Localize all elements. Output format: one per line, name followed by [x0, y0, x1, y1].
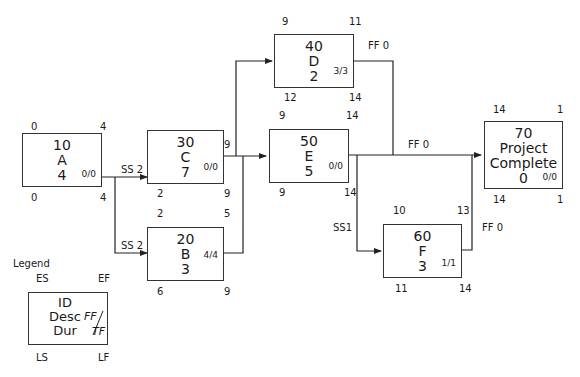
node-f-es: 10 [393, 205, 406, 216]
link-label-e-pc: FF 0 [408, 139, 429, 150]
legend-es: ES [36, 273, 49, 284]
node-a-es: 0 [31, 121, 37, 132]
node-f-ls: 11 [395, 283, 408, 294]
legend-lf: LF [98, 352, 109, 363]
node-pc-ls: 14 [493, 194, 506, 205]
node-c-ef: 9 [224, 139, 230, 150]
node-a-ff-tf: 0/0 [82, 169, 96, 179]
node-pc-es: 14 [493, 104, 506, 115]
node-f-id: 60 [384, 229, 461, 244]
legend-id: ID [23, 296, 107, 310]
node-a-id: 10 [23, 138, 101, 153]
link-label-a-c: SS 2 [121, 164, 143, 175]
node-pc-ef: 1 [557, 104, 563, 115]
node-d[interactable]: 40 D 2 3/3 [274, 34, 354, 88]
link-label-d-pc: FF 0 [368, 40, 389, 51]
node-b-ef: 5 [224, 208, 230, 219]
legend-ef: EF [98, 273, 110, 284]
node-f-desc: F [384, 244, 461, 259]
link-c-d [236, 61, 272, 156]
node-f[interactable]: 60 F 3 1/1 [383, 224, 462, 278]
node-e-ls: 9 [279, 187, 285, 198]
node-project-complete[interactable]: 70 Project Complete 0 0/0 [484, 121, 563, 189]
node-d-es: 9 [282, 16, 288, 27]
node-b[interactable]: 20 B 3 4/4 [147, 227, 224, 281]
node-c-ff-tf: 0/0 [204, 162, 218, 172]
node-pc-ff-tf: 0/0 [543, 172, 557, 182]
node-f-ff-tf: 1/1 [442, 258, 456, 268]
link-label-e-f: SS1 [333, 222, 352, 233]
node-pc-lf: 1 [557, 194, 563, 205]
legend-tf: TF [92, 325, 105, 338]
node-c-ls: 2 [157, 188, 163, 199]
node-e-id: 50 [270, 134, 348, 149]
node-b-es: 2 [157, 208, 163, 219]
node-b-ff-tf: 4/4 [204, 250, 218, 260]
node-pc-desc-2: Complete [485, 156, 562, 171]
legend-title: Legend [13, 258, 50, 269]
node-f-lf: 14 [459, 283, 472, 294]
node-e-ff-tf: 0/0 [329, 161, 343, 171]
node-d-ls: 12 [284, 92, 297, 103]
node-a[interactable]: 10 A 4 0/0 [22, 133, 102, 187]
node-c-id: 30 [148, 135, 223, 150]
node-d-lf: 14 [349, 92, 362, 103]
node-c[interactable]: 30 C 7 0/0 [147, 130, 224, 184]
node-e[interactable]: 50 E 5 0/0 [269, 129, 349, 183]
node-a-ls: 0 [31, 192, 37, 203]
node-f-ef: 13 [457, 205, 470, 216]
node-b-ls: 6 [157, 286, 163, 297]
node-e-es: 9 [279, 110, 285, 121]
node-pc-desc-1: Project [485, 141, 562, 156]
legend-box: ID Desc Dur FF TF [28, 292, 108, 345]
node-e-ef: 14 [346, 110, 359, 121]
node-d-ff-tf: 3/3 [334, 66, 348, 76]
node-b-dur: 3 [148, 262, 223, 277]
node-a-ef: 4 [100, 121, 106, 132]
link-e-f [357, 155, 381, 251]
node-d-ef: 11 [349, 16, 362, 27]
node-b-lf: 9 [224, 286, 230, 297]
legend-ls: LS [36, 352, 48, 363]
node-c-lf: 9 [224, 188, 230, 199]
link-d-pc [354, 61, 393, 155]
node-e-lf: 14 [344, 187, 357, 198]
node-a-lf: 4 [100, 192, 106, 203]
node-pc-id: 70 [485, 126, 562, 141]
link-label-f-pc: FF 0 [482, 222, 503, 233]
node-b-id: 20 [148, 232, 223, 247]
link-b-e [223, 156, 243, 253]
node-d-id: 40 [275, 39, 353, 54]
link-label-a-b: SS 2 [121, 240, 143, 251]
node-a-desc: A [23, 153, 101, 168]
